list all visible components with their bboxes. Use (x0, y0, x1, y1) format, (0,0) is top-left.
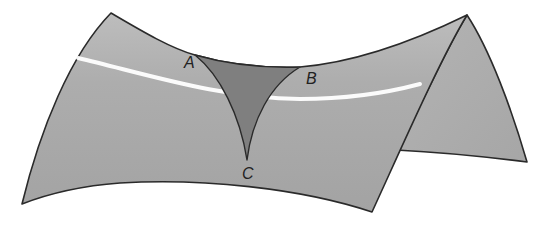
saddle-surface-figure (0, 0, 557, 227)
vertex-label-b: B (306, 71, 317, 87)
vertex-label-a: A (184, 55, 195, 71)
vertex-label-c: C (242, 166, 254, 182)
